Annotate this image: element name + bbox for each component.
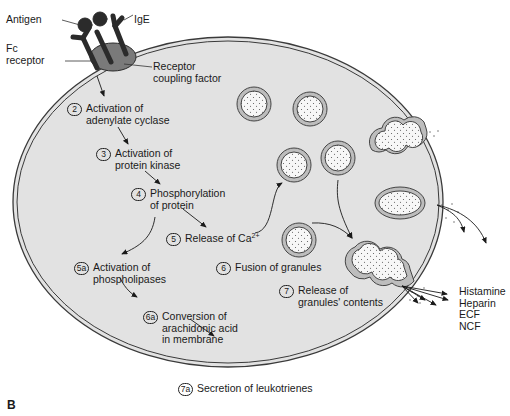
step-text: Secretion of leukotrienes xyxy=(197,383,313,395)
ige-label: IgE xyxy=(134,14,150,26)
fc-receptor-label: Fc receptor xyxy=(6,43,45,66)
step-7a: 7a Secretion of leukotrienes xyxy=(178,383,313,396)
step-2: 2 Activation ofadenylate cyclase xyxy=(67,103,169,126)
step-6a: 6a Conversion ofarachidonic acidin membr… xyxy=(143,311,238,346)
step-6: 6 Fusion of granules xyxy=(216,262,321,275)
step-text: granules' contents xyxy=(298,297,383,309)
released-mediators-list: Histamine Heparin ECF NCF xyxy=(459,286,506,332)
step-number-badge: 7a xyxy=(178,383,193,396)
receptor-coupling-factor-label: Receptor coupling factor xyxy=(153,61,221,84)
step-number-badge: 5a xyxy=(74,262,89,275)
fc-receptor-line-1: Fc xyxy=(6,43,45,55)
rcf-line-1: Receptor xyxy=(153,61,221,73)
step-number-badge: 2 xyxy=(67,103,82,116)
step-text: Conversion of xyxy=(162,311,238,323)
step-3: 3 Activation ofprotein kinase xyxy=(96,148,180,171)
calcium-charge-superscript: 2+ xyxy=(252,232,260,239)
fc-receptor-line-2: receptor xyxy=(6,55,45,67)
step-text: Activation of xyxy=(86,103,169,115)
step-text: in membrane xyxy=(162,334,238,346)
mediator-histamine: Histamine xyxy=(459,286,506,298)
step-text: Release of Ca xyxy=(185,232,252,244)
step-text: phospholipases xyxy=(93,274,166,286)
step-text: protein kinase xyxy=(115,160,180,172)
step-number-badge: 5 xyxy=(166,233,181,246)
step-number-badge: 6 xyxy=(216,262,231,275)
diagram-artwork xyxy=(0,0,510,416)
step-5a: 5a Activation ofphospholipases xyxy=(74,262,166,285)
step-text: Activation of xyxy=(115,148,180,160)
step-text: adenylate cyclase xyxy=(86,115,169,127)
mediator-ecf: ECF xyxy=(459,309,506,321)
step-text: Fusion of granules xyxy=(235,262,321,274)
step-number-badge: 7 xyxy=(279,285,294,298)
step-text: Activation of xyxy=(93,262,166,274)
step-text: Phosphorylation xyxy=(150,188,225,200)
step-7: 7 Release ofgranules' contents xyxy=(279,285,383,308)
step-text: of protein xyxy=(150,200,225,212)
step-text: Release of xyxy=(298,285,383,297)
antigen-label: Antigen xyxy=(6,14,42,26)
step-number-badge: 4 xyxy=(131,188,146,201)
step-4: 4 Phosphorylationof protein xyxy=(131,188,225,211)
panel-label: B xyxy=(7,398,16,412)
step-5: 5 Release of Ca2+ xyxy=(166,233,260,246)
step-number-badge: 3 xyxy=(96,148,111,161)
mediator-ncf: NCF xyxy=(459,321,506,333)
rcf-line-2: coupling factor xyxy=(153,73,221,85)
step-number-badge: 6a xyxy=(143,311,158,324)
